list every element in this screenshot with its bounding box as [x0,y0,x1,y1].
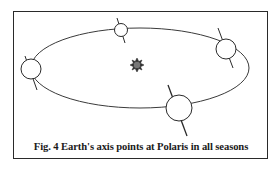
earth-bottom [166,85,192,136]
earth-right [216,28,236,68]
earth-left [21,56,41,90]
earth-top [115,18,128,43]
sun-icon [130,58,144,72]
figure-caption: Fig. 4 Earth's axis points at Polaris in… [14,141,268,152]
